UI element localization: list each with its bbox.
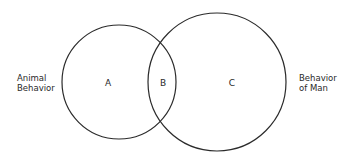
- animal-behavior-circle: [62, 25, 176, 139]
- behavior-of-man-label-line2: of Man: [299, 83, 337, 93]
- region-a-label: A: [105, 78, 111, 88]
- region-c-label: C: [229, 78, 235, 88]
- animal-behavior-label-line1: Animal: [17, 73, 55, 83]
- region-b-label: B: [160, 78, 166, 88]
- behavior-of-man-label-line1: Behavior: [299, 73, 337, 83]
- behavior-of-man-circle: [148, 13, 286, 151]
- behavior-of-man-label: Behavior of Man: [299, 73, 337, 93]
- animal-behavior-label-line2: Behavior: [17, 83, 55, 93]
- animal-behavior-label: Animal Behavior: [17, 73, 55, 93]
